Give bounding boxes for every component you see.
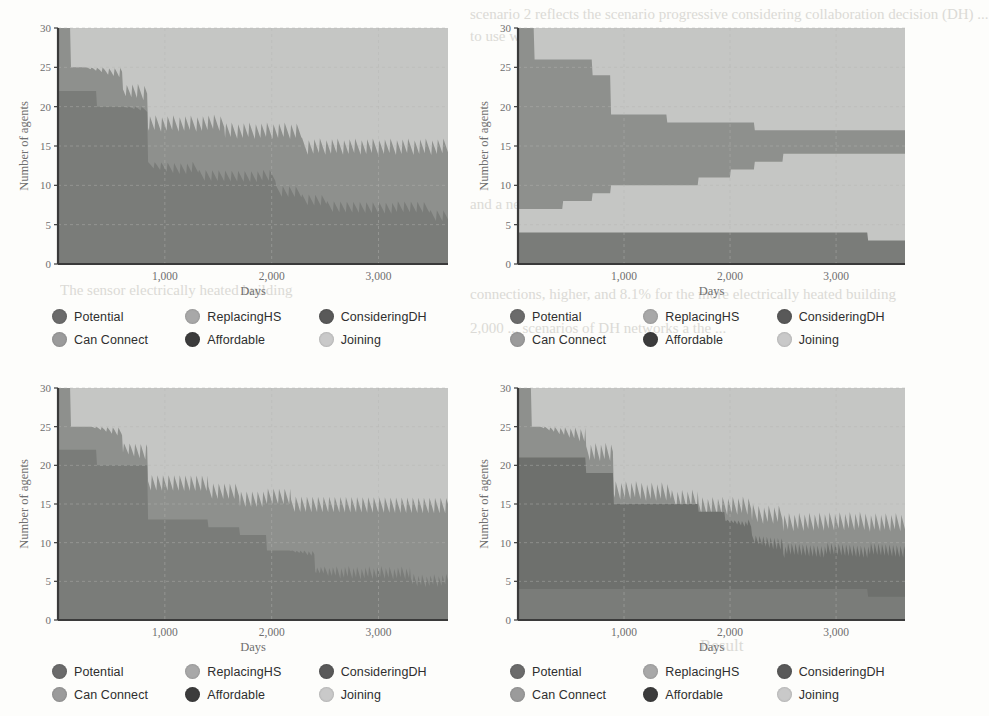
legend-swatch-icon <box>510 687 525 702</box>
legend-swatch-icon <box>185 664 200 679</box>
y-tick-label: 20 <box>500 101 512 113</box>
legend-item-label: Can Connect <box>532 688 606 702</box>
legend-item-label: ReplacingHS <box>665 665 739 679</box>
legend-item-consideringdh[interactable]: ConsideringDH <box>777 309 910 324</box>
legend-swatch-icon <box>510 309 525 324</box>
legend-item-label: ConsideringDH <box>341 665 427 679</box>
legend-item-consideringdh[interactable]: ConsideringDH <box>777 664 910 679</box>
legend-swatch-icon <box>510 664 525 679</box>
legend-item-label: ReplacingHS <box>665 310 739 324</box>
legend-item-affordable[interactable]: Affordable <box>643 687 776 702</box>
legend-item-potential[interactable]: Potential <box>510 309 643 324</box>
legend-item-affordable[interactable]: Affordable <box>185 687 318 702</box>
legend-swatch-icon <box>777 687 792 702</box>
y-axis-title: Number of agents <box>17 459 31 549</box>
legend-item-can-connect[interactable]: Can Connect <box>52 332 185 347</box>
x-axis-title: Days <box>240 284 266 298</box>
legend-item-replacinghs[interactable]: ReplacingHS <box>643 664 776 679</box>
x-tick-label: 3,000 <box>823 626 849 639</box>
legend-item-potential[interactable]: Potential <box>52 309 185 324</box>
legend-bottom-right: PotentialReplacingHSConsideringDHCan Con… <box>510 660 910 706</box>
legend-swatch-icon <box>643 309 658 324</box>
y-tick-label: 30 <box>40 22 52 34</box>
y-tick-label: 0 <box>46 614 52 626</box>
x-tick-label: 3,000 <box>366 270 392 283</box>
legend-top-left: PotentialReplacingHSConsideringDHCan Con… <box>52 305 452 351</box>
legend-swatch-icon <box>319 332 334 347</box>
legend-swatch-icon <box>319 664 334 679</box>
legend-item-label: Joining <box>799 333 839 347</box>
y-tick-label: 10 <box>40 537 52 549</box>
legend-item-label: Potential <box>532 310 582 324</box>
y-tick-label: 5 <box>506 219 512 231</box>
y-tick-label: 25 <box>40 61 52 73</box>
legend-item-potential[interactable]: Potential <box>510 664 643 679</box>
legend-item-label: Joining <box>341 688 381 702</box>
legend-item-label: Joining <box>341 333 381 347</box>
legend-item-label: ConsideringDH <box>799 665 885 679</box>
x-axis-title: Days <box>699 640 725 654</box>
legend-item-joining[interactable]: Joining <box>777 332 910 347</box>
legend-item-affordable[interactable]: Affordable <box>185 332 318 347</box>
y-axis-title: Number of agents <box>477 459 491 549</box>
plot-area-top-right: 0510152025301,0002,0003,000DaysNumber of… <box>460 0 917 300</box>
y-tick-label: 25 <box>500 421 512 433</box>
y-tick-label: 15 <box>500 140 512 152</box>
y-tick-label: 30 <box>500 382 512 394</box>
legend-item-label: Affordable <box>665 688 723 702</box>
chart-panel-bottom-left: 0510152025301,0002,0003,000DaysNumber of… <box>0 360 460 716</box>
legend-item-label: Affordable <box>207 333 265 347</box>
legend-item-affordable[interactable]: Affordable <box>643 332 776 347</box>
y-tick-label: 20 <box>40 101 52 113</box>
legend-swatch-icon <box>510 332 525 347</box>
legend-swatch-icon <box>52 309 67 324</box>
x-tick-label: 1,000 <box>611 626 637 639</box>
y-tick-label: 0 <box>506 258 512 270</box>
x-tick-label: 1,000 <box>152 270 178 283</box>
legend-item-joining[interactable]: Joining <box>777 687 910 702</box>
legend-item-replacinghs[interactable]: ReplacingHS <box>185 309 318 324</box>
legend-item-can-connect[interactable]: Can Connect <box>52 687 185 702</box>
legend-item-replacinghs[interactable]: ReplacingHS <box>185 664 318 679</box>
chart-svg-top-left: 0510152025301,0002,0003,000DaysNumber of… <box>0 0 460 300</box>
legend-item-consideringdh[interactable]: ConsideringDH <box>319 664 452 679</box>
x-tick-label: 2,000 <box>259 626 285 639</box>
legend-item-label: Potential <box>74 310 124 324</box>
legend-item-label: Joining <box>799 688 839 702</box>
legend-item-label: Affordable <box>665 333 723 347</box>
y-tick-label: 5 <box>46 575 52 587</box>
legend-item-can-connect[interactable]: Can Connect <box>510 332 643 347</box>
y-tick-label: 5 <box>46 219 52 231</box>
legend-item-label: Can Connect <box>532 333 606 347</box>
legend-item-label: ReplacingHS <box>207 310 281 324</box>
x-axis-title: Days <box>699 284 725 298</box>
x-axis-title: Days <box>240 640 266 654</box>
plot-area-bottom-right: 0510152025301,0002,0003,000DaysNumber of… <box>460 360 917 656</box>
x-tick-label: 1,000 <box>152 626 178 639</box>
legend-item-label: Can Connect <box>74 333 148 347</box>
legend-item-can-connect[interactable]: Can Connect <box>510 687 643 702</box>
chart-panel-top-left: 0510152025301,0002,0003,000DaysNumber of… <box>0 0 460 360</box>
legend-item-joining[interactable]: Joining <box>319 332 452 347</box>
y-tick-label: 30 <box>500 22 512 34</box>
legend-swatch-icon <box>777 332 792 347</box>
legend-swatch-icon <box>52 664 67 679</box>
legend-item-consideringdh[interactable]: ConsideringDH <box>319 309 452 324</box>
y-tick-label: 25 <box>40 421 52 433</box>
legend-item-label: Potential <box>532 665 582 679</box>
y-tick-label: 30 <box>40 382 52 394</box>
chart-svg-bottom-left: 0510152025301,0002,0003,000DaysNumber of… <box>0 360 460 656</box>
legend-item-potential[interactable]: Potential <box>52 664 185 679</box>
y-tick-label: 15 <box>500 498 512 510</box>
chart-panel-bottom-right: 0510152025301,0002,0003,000DaysNumber of… <box>460 360 917 716</box>
legend-item-label: Potential <box>74 665 124 679</box>
x-tick-label: 2,000 <box>717 270 743 283</box>
x-tick-label: 2,000 <box>259 270 285 283</box>
legend-top-right: PotentialReplacingHSConsideringDHCan Con… <box>510 305 910 351</box>
legend-swatch-icon <box>319 687 334 702</box>
y-tick-label: 10 <box>500 179 512 191</box>
legend-item-joining[interactable]: Joining <box>319 687 452 702</box>
plot-area-bottom-left: 0510152025301,0002,0003,000DaysNumber of… <box>0 360 460 656</box>
legend-item-replacinghs[interactable]: ReplacingHS <box>643 309 776 324</box>
